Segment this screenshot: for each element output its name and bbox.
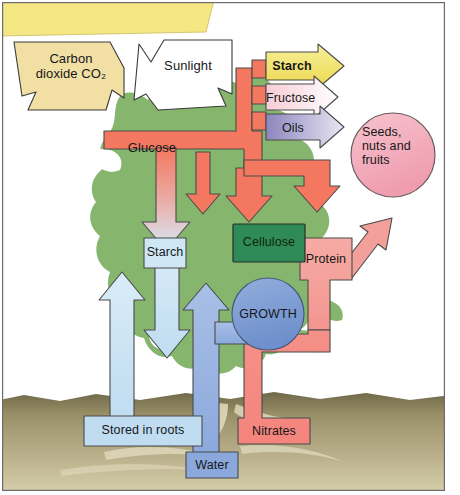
growth-circle <box>232 278 304 350</box>
soil-layer <box>0 392 460 495</box>
starch-storage-box <box>144 238 186 268</box>
cellulose-box <box>233 224 305 262</box>
top-banner <box>0 0 214 36</box>
diagram-artwork <box>0 0 460 495</box>
seeds-nuts-fruits-circle <box>351 113 435 197</box>
diagram-canvas: Carbon dioxide CO₂ Sunlight Glucose Star… <box>0 0 460 495</box>
